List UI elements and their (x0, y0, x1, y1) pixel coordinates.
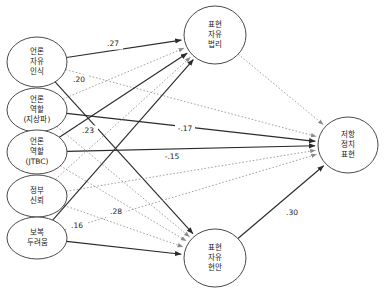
coefficient-label-e13: .16 (71, 221, 83, 230)
node-label-press_role_terrestrial: 역할 (30, 104, 44, 114)
coefficient-labels-layer: .27.20-.17.23-.15.16.28.30 (67, 39, 302, 232)
node-label-press_role_terrestrial: 언론 (30, 94, 44, 104)
path-edge-expression_freedom_jurisprudence-to-resistance_political_expression (238, 54, 323, 124)
path-edge-fear_of_retaliation-to-expression_freedom_issues (67, 241, 182, 254)
node-label-expression_freedom_jurisprudence: 법리 (208, 39, 222, 49)
node-label-press_role_terrestrial: (지상파) (24, 114, 51, 124)
node-label-fear_of_retaliation: 두려움 (27, 237, 48, 247)
coefficient-label-e14: .28 (110, 207, 122, 216)
node-label-government_trust: 신뢰 (30, 196, 44, 205)
node-press_freedom_perception[interactable]: 언론자유인식 (7, 37, 67, 87)
node-expression_freedom_issues[interactable]: 표현자유현안 (184, 229, 246, 287)
node-government_trust[interactable]: 정부신뢰 (7, 175, 67, 217)
path-edge-press_role_jtbc-to-resistance_political_expression (67, 146, 315, 152)
node-label-press_role_jtbc: 언론 (30, 136, 44, 146)
node-press_role_terrestrial[interactable]: 언론역할(지상파) (7, 88, 67, 132)
node-label-government_trust: 정부 (30, 185, 44, 195)
coefficient-label-e17: .30 (286, 208, 298, 217)
coefficient-label-e2: .20 (73, 75, 85, 84)
node-label-press_freedom_perception: 인식 (30, 66, 44, 76)
path-edge-fear_of_retaliation-to-resistance_political_expression (65, 154, 317, 229)
node-expression_freedom_jurisprudence[interactable]: 표현자유법리 (184, 6, 246, 64)
node-label-press_role_jtbc: 역할 (30, 146, 44, 156)
node-resistance_political_expression[interactable]: 저항정치표현 (318, 117, 378, 173)
node-fear_of_retaliation[interactable]: 보복두려움 (7, 217, 67, 259)
coefficient-label-e1: .27 (107, 39, 119, 48)
node-label-expression_freedom_jurisprudence: 자유 (208, 30, 222, 39)
path-edge-expression_freedom_issues-to-resistance_political_expression (238, 166, 324, 239)
node-label-expression_freedom_jurisprudence: 표현 (208, 20, 222, 29)
coefficient-label-e8: -.15 (165, 152, 180, 161)
path-diagram-canvas: 언론자유인식언론역할(지상파)언론역할(JTBC)정부신뢰보복두려움표현자유법리… (0, 0, 384, 294)
node-label-resistance_political_expression: 저항 (341, 130, 355, 139)
path-edge-press_freedom_perception-to-expression_freedom_jurisprudence (67, 40, 182, 57)
node-label-resistance_political_expression: 표현 (341, 150, 355, 159)
node-label-fear_of_retaliation: 보복 (30, 228, 44, 237)
node-label-resistance_political_expression: 정치 (341, 139, 355, 149)
path-diagram-svg: 언론자유인식언론역할(지상파)언론역할(JTBC)정부신뢰보복두려움표현자유법리… (0, 0, 384, 294)
node-label-expression_freedom_issues: 현안 (208, 262, 222, 272)
nodes-layer: 언론자유인식언론역할(지상파)언론역할(JTBC)정부신뢰보복두려움표현자유법리… (7, 6, 378, 287)
coefficient-label-e7: .23 (82, 126, 94, 135)
node-label-press_role_jtbc: (JTBC) (26, 157, 49, 166)
edges-layer (53, 40, 324, 254)
node-label-expression_freedom_issues: 자유 (208, 253, 222, 262)
node-label-press_freedom_perception: 자유 (30, 57, 44, 66)
node-press_role_jtbc[interactable]: 언론역할(JTBC) (7, 130, 67, 174)
node-label-press_freedom_perception: 언론 (30, 46, 44, 56)
coefficient-label-e4: -.17 (178, 124, 193, 133)
path-edge-government_trust-to-resistance_political_expression (66, 150, 315, 191)
node-label-expression_freedom_issues: 표현 (208, 243, 222, 252)
